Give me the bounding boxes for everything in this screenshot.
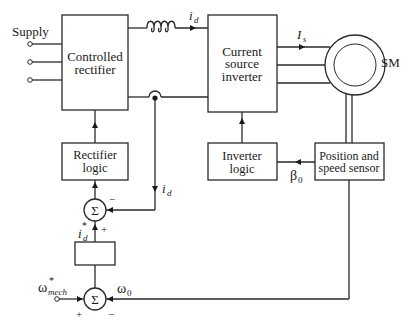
- speed-controller-block: [75, 242, 115, 288]
- beta0-signal: β 0: [277, 159, 315, 185]
- svg-text:0: 0: [127, 288, 132, 298]
- svg-text:+: +: [76, 308, 82, 320]
- dc-link-top: i d: [128, 8, 208, 32]
- position-speed-sensor-block: Position and speed sensor: [315, 143, 384, 180]
- svg-text:0: 0: [298, 175, 303, 185]
- is-label: I: [296, 27, 302, 42]
- omega0-label: ω: [117, 281, 126, 296]
- speed-ref-label: ω: [38, 280, 47, 295]
- svg-text:−: −: [109, 193, 115, 205]
- svg-text:logic: logic: [230, 162, 255, 176]
- motor-feed-lines: I s: [277, 27, 330, 83]
- svg-text:*: *: [82, 220, 87, 231]
- current-arrow-icon: [190, 25, 196, 31]
- supply-input: Supply: [12, 24, 62, 82]
- sm-label: SM: [381, 55, 400, 70]
- synchronous-motor: SM: [325, 35, 400, 143]
- id-label-feedback: i: [162, 181, 166, 196]
- speed-ref-input: ω mech *: [38, 275, 84, 302]
- controlled-rectifier-block: Controlled rectifier: [62, 15, 128, 110]
- arrow-right-icon: [77, 296, 83, 302]
- sigma-icon: Σ: [91, 292, 99, 307]
- svg-text:logic: logic: [83, 161, 108, 175]
- arrow-up-icon: [92, 224, 98, 230]
- svg-text:Inverter: Inverter: [222, 149, 262, 163]
- svg-text:Rectifier: Rectifier: [73, 148, 118, 162]
- svg-text:inverter: inverter: [222, 69, 263, 84]
- inverter-logic-block: Inverter logic: [208, 112, 277, 180]
- arrow-down-icon: [152, 186, 158, 192]
- svg-text:d: d: [194, 15, 199, 25]
- arrow-up-icon: [92, 182, 98, 188]
- speed-ref-terminal: [55, 297, 60, 302]
- beta0-label: β: [290, 168, 297, 183]
- supply-terminal-3: [28, 78, 33, 83]
- sigma-icon: Σ: [91, 203, 99, 218]
- current-summing-junction: Σ − +: [84, 180, 115, 235]
- arrow-up-icon: [239, 118, 245, 124]
- dc-link-bottom: [128, 91, 208, 101]
- arrow-up-icon: [92, 122, 98, 128]
- svg-text:s: s: [303, 35, 306, 44]
- id-label-top: i: [189, 8, 193, 23]
- svg-text:speed sensor: speed sensor: [319, 161, 380, 175]
- supply-terminal-1: [28, 42, 33, 47]
- current-source-inverter-block: Current source inverter: [208, 15, 277, 112]
- diagram-canvas: Supply Controlled rectifier i d Current …: [0, 0, 413, 325]
- motor-rotor-icon: [334, 44, 376, 86]
- svg-text:mech: mech: [48, 287, 67, 297]
- supply-label: Supply: [12, 24, 49, 39]
- stator-current-arrow-icon: [299, 44, 305, 50]
- svg-text:+: +: [101, 223, 107, 235]
- supply-terminal-2: [28, 60, 33, 65]
- arrow-left-icon: [295, 159, 301, 165]
- rectifier-logic-block: Rectifier logic: [62, 110, 128, 180]
- id-ref-signal: i d *: [78, 220, 98, 243]
- speed-summing-junction: Σ + −: [76, 288, 114, 320]
- arrow-left-icon: [107, 296, 113, 302]
- arrow-left-icon: [107, 207, 113, 213]
- svg-text:*: *: [49, 275, 54, 286]
- svg-text:d: d: [167, 188, 172, 198]
- inductor-icon: [147, 21, 175, 28]
- svg-text:−: −: [108, 308, 114, 320]
- controlled-rectifier-label-line2: rectifier: [74, 62, 116, 77]
- speed-feedback: ω 0: [106, 180, 349, 302]
